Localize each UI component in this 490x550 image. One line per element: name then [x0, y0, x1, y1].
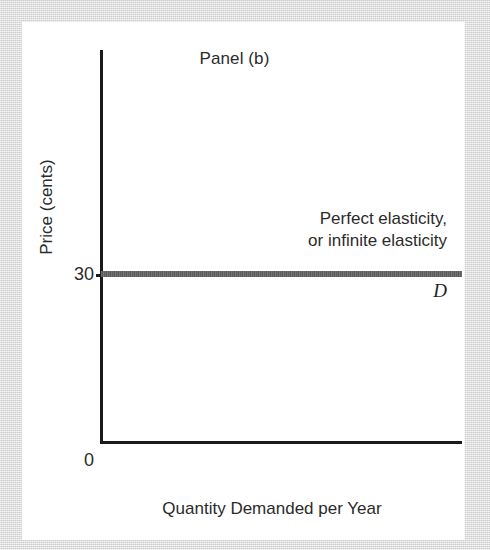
y-axis-tick-label-30: 30 [46, 264, 94, 285]
demand-curve-label: D [433, 280, 447, 302]
figure-panel-card: Panel (b) Price (cents) Quantity Demande… [22, 22, 465, 540]
origin-label: 0 [50, 450, 94, 471]
y-axis-title: Price (cents) [37, 127, 57, 287]
page-title: Panel (b) [22, 49, 447, 69]
x-axis-title: Quantity Demanded per Year [82, 499, 462, 519]
figure-root: Panel (b) Price (cents) Quantity Demande… [0, 0, 490, 550]
demand-curve-line [101, 271, 462, 277]
demand-annotation-line-2: or infinite elasticity [308, 230, 447, 252]
demand-annotation-line-1: Perfect elasticity, [308, 208, 447, 230]
y-axis-line [100, 50, 103, 444]
demand-annotation: Perfect elasticity, or infinite elastici… [308, 208, 447, 253]
x-axis-line [100, 441, 462, 444]
